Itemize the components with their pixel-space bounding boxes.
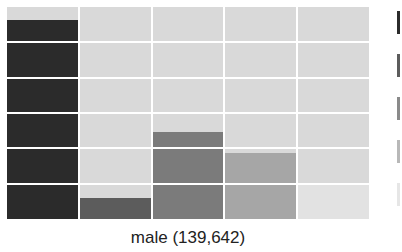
bar — [7, 20, 79, 219]
gridline-horizontal — [7, 112, 369, 114]
gridline-vertical — [78, 7, 80, 219]
gridline-horizontal — [7, 147, 369, 149]
legend-swatch — [397, 11, 400, 34]
plot-area — [7, 7, 369, 219]
bar — [224, 153, 296, 219]
legend-swatch — [397, 97, 400, 120]
gridline-vertical — [151, 7, 153, 219]
gridline-vertical — [223, 7, 225, 219]
bar — [79, 198, 151, 219]
gridline-horizontal — [7, 183, 369, 185]
gridline-vertical — [296, 7, 298, 219]
bar — [297, 185, 369, 219]
gridline-horizontal — [7, 41, 369, 43]
legend-swatch — [397, 54, 400, 77]
legend-swatch — [397, 140, 400, 163]
bar — [152, 132, 224, 219]
legend-swatch — [397, 183, 400, 206]
panel-label: male (139,642) — [7, 228, 369, 248]
gridline-horizontal — [7, 77, 369, 79]
